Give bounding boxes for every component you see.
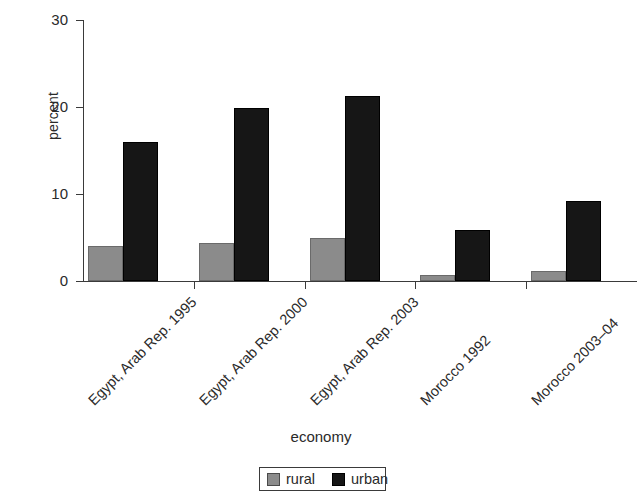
bar-rural-5 — [531, 271, 566, 281]
bar-urban-3 — [345, 96, 380, 281]
x-axis-title: economy — [0, 428, 642, 445]
bar-rural-2 — [199, 243, 234, 281]
y-axis-tick-label: 30 — [28, 12, 68, 27]
y-axis-line — [83, 20, 84, 281]
legend-label-rural: rural — [286, 471, 315, 487]
legend-item-urban: urban — [332, 468, 388, 490]
x-axis-category-label: Morocco 2003–04 — [528, 315, 621, 408]
legend-label-urban: urban — [351, 471, 388, 487]
bar-rural-1 — [88, 246, 123, 281]
y-axis-tick-mark — [76, 194, 83, 195]
x-axis-category-label: Egypt, Arab Rep. 2000 — [196, 294, 310, 408]
legend-swatch-urban-icon — [332, 473, 345, 486]
legend: rural urban — [259, 467, 386, 491]
x-axis-category-label: Egypt, Arab Rep. 1995 — [85, 294, 199, 408]
x-axis-line — [83, 281, 637, 282]
y-axis-tick-label: 0 — [28, 273, 68, 288]
bar-urban-5 — [566, 201, 601, 281]
y-axis-title: percent — [45, 71, 61, 161]
x-axis-tick-mark — [526, 281, 527, 289]
y-axis-tick-mark — [76, 20, 83, 21]
y-axis-tick-label: 20 — [28, 99, 68, 114]
bar-urban-1 — [123, 142, 158, 281]
y-axis-tick-mark — [76, 107, 83, 108]
bar-urban-4 — [455, 230, 490, 281]
legend-swatch-rural-icon — [267, 473, 280, 486]
x-axis-category-label: Morocco 1992 — [417, 332, 493, 408]
legend-item-rural: rural — [267, 468, 315, 490]
x-axis-category-label: Egypt, Arab Rep. 2003 — [307, 294, 421, 408]
bar-urban-2 — [234, 108, 269, 281]
y-axis-tick-mark — [76, 281, 83, 282]
y-axis-tick-label: 10 — [28, 186, 68, 201]
bar-chart: percent 0102030 Egypt, Arab Rep. 1995Egy… — [0, 0, 642, 493]
x-axis-tick-mark — [415, 281, 416, 289]
bar-rural-3 — [310, 238, 345, 282]
x-axis-tick-mark — [194, 281, 195, 289]
bar-rural-4 — [420, 275, 455, 281]
x-axis-tick-mark — [305, 281, 306, 289]
